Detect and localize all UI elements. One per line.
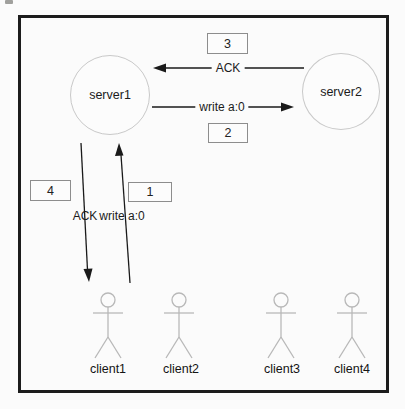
arrowhead-right-icon [281, 103, 294, 112]
step-4-box: 4 [30, 180, 71, 201]
arrowhead-left-icon [153, 64, 166, 73]
client3-label: client3 [264, 362, 300, 376]
client1-stick-figure-icon [93, 293, 123, 358]
server2-label: server2 [320, 85, 362, 99]
diagram-canvas: server1 server2 3 2 4 1 ACK write a:0 AC… [0, 0, 405, 409]
step-1-box: 1 [128, 182, 172, 202]
step-2-box: 2 [208, 123, 248, 143]
client2-label: client2 [163, 362, 199, 376]
step-4-number: 4 [47, 184, 54, 198]
step-3-box: 3 [207, 33, 248, 54]
client1-label: client1 [90, 362, 126, 376]
step-1-number: 1 [147, 185, 154, 199]
arrowhead-down-icon [84, 269, 93, 283]
server1-node: server1 [70, 55, 150, 135]
step-2-number: 2 [225, 126, 232, 140]
ack-label-servers: ACK [212, 61, 245, 75]
ack-label-client: ACK [73, 209, 98, 223]
write-label-client: write a:0 [99, 209, 144, 223]
client4-label: client4 [334, 362, 370, 376]
arrowhead-up-icon [115, 143, 124, 156]
server1-label: server1 [89, 88, 131, 102]
step-3-number: 3 [224, 37, 231, 51]
client3-stick-figure-icon [266, 293, 296, 358]
write-label-servers: write a:0 [195, 100, 248, 114]
client2-stick-figure-icon [164, 293, 194, 358]
client4-stick-figure-icon [337, 293, 367, 358]
server2-node: server2 [302, 53, 380, 130]
